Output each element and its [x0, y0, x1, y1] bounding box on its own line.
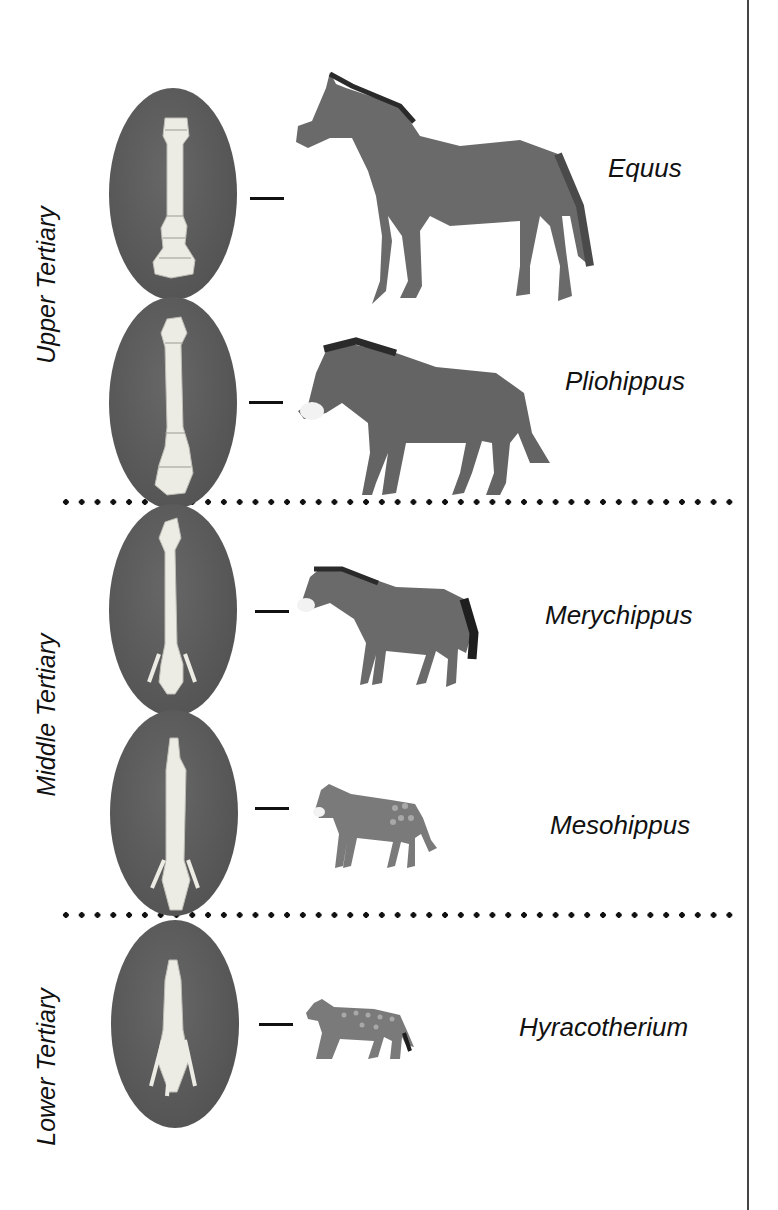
foot-bone-icon: [109, 504, 237, 716]
connector-dash: [255, 807, 289, 810]
period-label-upper-tertiary: Upper Tertiary: [32, 206, 61, 363]
connector-dash: [259, 1023, 293, 1026]
genus-label-equus: Equus: [608, 153, 682, 184]
foot-bone-icon: [109, 88, 237, 300]
foot-bone-oval-merychippus: [109, 504, 237, 716]
period-label-middle-tertiary: Middle Tertiary: [32, 633, 61, 796]
connector-dash: [249, 401, 283, 404]
horse-illustration-hyracotherium: [304, 997, 416, 1063]
horse-illustration-pliohippus: [296, 333, 551, 498]
foot-bone-oval-pliohippus: [109, 297, 237, 509]
foot-bone-icon: [109, 297, 237, 509]
foot-bone-oval-hyracotherium: [111, 920, 239, 1128]
horse-illustration-mesohippus: [311, 778, 441, 870]
genus-label-merychippus: Merychippus: [545, 600, 692, 631]
genus-label-mesohippus: Mesohippus: [550, 810, 690, 841]
connector-dash: [255, 610, 289, 613]
horse-illustration-merychippus: [296, 563, 484, 689]
connector-dash: [250, 197, 284, 200]
genus-label-hyracotherium: Hyracotherium: [519, 1012, 688, 1043]
period-label-lower-tertiary: Lower Tertiary: [32, 988, 61, 1145]
genus-label-pliohippus: Pliohippus: [565, 366, 685, 397]
foot-bone-icon: [110, 710, 238, 916]
foot-bone-oval-equus: [109, 88, 237, 300]
foot-bone-icon: [111, 920, 239, 1128]
right-border-line: [747, 0, 749, 1210]
foot-bone-oval-mesohippus: [110, 710, 238, 916]
horse-illustration-equus: [290, 66, 595, 306]
